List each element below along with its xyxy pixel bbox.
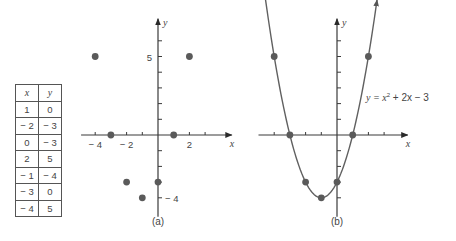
figure: x y 10 − 2− 3 0− 3 25 − 1− 4 − 30 − 45 x… xyxy=(0,0,456,241)
data-points-a xyxy=(92,53,193,201)
equation-tail: + 2x − 3 xyxy=(390,92,429,103)
data-point xyxy=(123,179,130,186)
data-point xyxy=(287,132,294,139)
y-axis-label: y xyxy=(341,17,347,28)
equation-x: = x xyxy=(370,92,387,103)
x-tick-label: 2 xyxy=(187,139,192,150)
parabola-plot-b: xy y = x2 + 2x − 3 (b) xyxy=(259,0,430,227)
x-tick-label: − 4 xyxy=(88,139,101,150)
axes-a: xy− 4− 225− 4 xyxy=(81,17,235,217)
y-tick-label: 5 xyxy=(147,52,152,63)
data-point xyxy=(92,53,99,60)
data-point xyxy=(155,179,162,186)
data-point xyxy=(170,132,177,139)
scatter-plot-a: xy− 4− 225− 4 (a) xyxy=(81,17,235,227)
data-point xyxy=(271,53,278,60)
x-axis-label: x xyxy=(229,138,235,149)
parabola-curve xyxy=(266,0,377,198)
data-point xyxy=(334,179,341,186)
data-point xyxy=(318,194,325,201)
x-tick-label: − 2 xyxy=(120,139,133,150)
plots-canvas: xy− 4− 225− 4 (a) xy y = x2 + 2x − 3 (b) xyxy=(0,0,456,241)
data-point xyxy=(302,179,309,186)
y-axis-label: y xyxy=(162,17,168,28)
y-tick-label: − 4 xyxy=(165,193,178,204)
data-points-b xyxy=(271,53,372,201)
data-point xyxy=(186,53,193,60)
data-point xyxy=(139,194,146,201)
data-point xyxy=(365,53,372,60)
panel-label-a: (a) xyxy=(152,216,164,227)
x-axis-label: x xyxy=(405,138,411,149)
data-point xyxy=(349,132,356,139)
equation-label: y = x2 + 2x − 3 xyxy=(365,92,429,103)
data-point xyxy=(108,132,115,139)
panel-label-b: (b) xyxy=(331,216,343,227)
